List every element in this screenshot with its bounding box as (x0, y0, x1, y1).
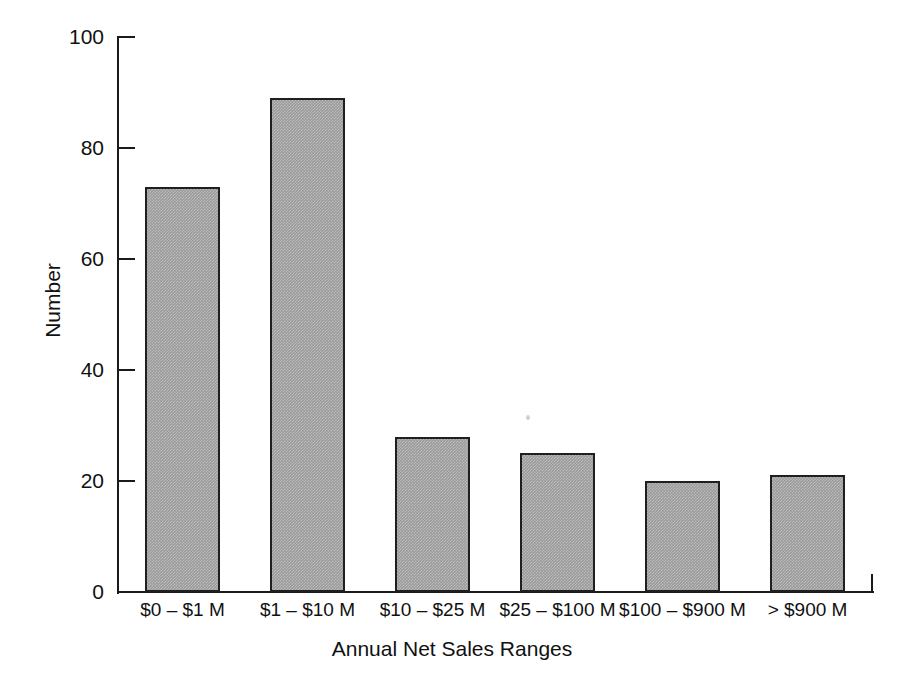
plot-area (118, 37, 872, 592)
y-axis-tick-label: 20 (0, 470, 104, 491)
scan-speck (526, 415, 530, 420)
y-axis-tick-label: 0 (0, 581, 104, 602)
bar (395, 437, 470, 592)
bar (770, 475, 845, 592)
y-axis-tick-label: 100 (0, 26, 104, 47)
bar (645, 481, 720, 592)
bar-chart: 020406080100 $0 – $1 M$1 – $10 M$10 – $2… (0, 0, 904, 697)
bar (520, 453, 595, 592)
bar (270, 98, 345, 592)
y-axis-tick-label: 80 (0, 137, 104, 158)
bar (145, 187, 220, 592)
y-axis-title: Number (42, 231, 63, 371)
x-axis-tick-label: > $900 M (718, 600, 898, 619)
x-axis-title: Annual Net Sales Ranges (0, 638, 904, 659)
